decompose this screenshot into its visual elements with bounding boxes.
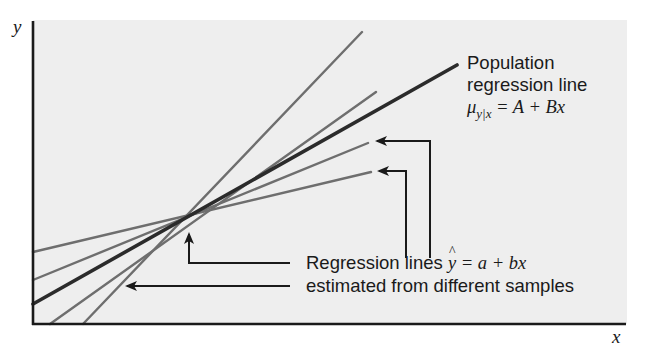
y-axis-label: y bbox=[13, 16, 21, 38]
population-equation-rest: = A + Bx bbox=[491, 97, 565, 117]
mu-symbol: μ bbox=[467, 97, 476, 117]
population-label-line1: Population bbox=[467, 52, 554, 74]
x-axis-label: x bbox=[612, 326, 620, 348]
sample-equation: = a + bx bbox=[456, 253, 526, 273]
y-hat-symbol: y bbox=[448, 252, 456, 274]
sample-label-line1: Regression lines y = a + bx bbox=[306, 252, 526, 274]
population-label-line2: regression line bbox=[467, 74, 587, 96]
sample-label-text: Regression lines bbox=[306, 252, 448, 273]
sample-label-line2: estimated from different samples bbox=[306, 275, 574, 297]
mu-subscript: y|x bbox=[476, 106, 491, 121]
population-equation: μy|x = A + Bx bbox=[467, 96, 565, 120]
